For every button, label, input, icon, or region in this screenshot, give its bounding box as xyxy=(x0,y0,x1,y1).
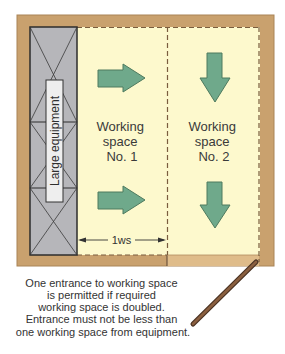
equipment-label: Large equipment xyxy=(48,95,62,186)
caption-line: One entrance to working space xyxy=(25,277,177,289)
caption-line: is permitted if required xyxy=(47,289,156,301)
caption-line: working space is doubled. xyxy=(37,301,165,313)
door-opening xyxy=(167,255,259,266)
caption-line: Entrance must not be less than xyxy=(26,313,178,325)
large-equipment: Large equipment xyxy=(30,27,77,255)
measurement-label: 1ws xyxy=(112,234,132,246)
door xyxy=(193,262,256,324)
caption: One entrance to working space is permitt… xyxy=(16,277,190,338)
working-space-diagram: Large equipment Working space No. 1 Work… xyxy=(0,0,285,354)
caption-line: one working space from equipment. xyxy=(16,326,190,338)
